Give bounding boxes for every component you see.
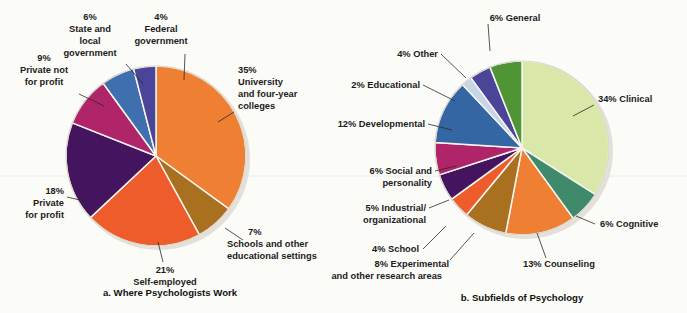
label-6-line1: 6%: [83, 12, 97, 22]
label-6-line3: local: [79, 36, 100, 46]
label-4-school: 4% School: [372, 244, 419, 254]
label-5-industrial-line2: organizational: [363, 215, 426, 225]
label-6-social-line1: 6% Social and: [369, 166, 432, 176]
label-5-industrial-line1: 5% Industrial/: [366, 203, 427, 213]
label-34-clinical: 34% Clinical: [598, 94, 652, 104]
label-21-line2: Self-employed: [133, 277, 197, 287]
label-8-experimental-line1: 8% Experimental: [375, 259, 449, 269]
label-4-other: 4% Other: [397, 49, 438, 59]
caption-chart-a: a. Where Psychologists Work: [103, 287, 238, 298]
label-13-counseling: 13% Counseling: [523, 259, 595, 269]
label-35-line1: 35%: [238, 65, 257, 75]
label-4-line2: Federal: [144, 24, 177, 34]
label-35-line4: colleges: [238, 101, 275, 111]
label-18-line1: 18%: [45, 186, 64, 196]
label-9-line2: Private not: [20, 65, 68, 75]
two-pie-charts-figure: 35% University and four-year colleges 7%…: [0, 0, 687, 313]
label-2-educational: 2% Educational: [351, 80, 420, 90]
label-6-cognitive: 6% Cognitive: [600, 219, 658, 229]
label-4-line1: 4%: [154, 12, 168, 22]
label-12-developmental: 12% Developmental: [338, 119, 425, 129]
caption-chart-b: b. Subfields of Psychology: [461, 292, 584, 303]
label-4-line3: government: [134, 36, 187, 46]
label-35-line3: and four-year: [238, 89, 298, 99]
pie-b-slices: [435, 61, 609, 235]
label-6-line4: government: [63, 48, 116, 58]
pie-a-slices: [66, 66, 246, 246]
label-9-line1: 9%: [37, 53, 51, 63]
label-8-experimental-line2: and other research areas: [331, 271, 442, 281]
label-21-line1: 21%: [156, 265, 175, 275]
figure-root: 35% University and four-year colleges 7%…: [0, 0, 687, 313]
label-6-social-line2: personality: [382, 178, 432, 188]
label-18-line3: for profit: [25, 210, 64, 220]
label-6-line2: State and: [69, 24, 111, 34]
label-6-general: 6% General: [490, 13, 541, 23]
label-7-line3: educational settings: [227, 251, 317, 261]
label-7-line1: 7%: [248, 227, 262, 237]
label-9-line3: for profit: [25, 77, 64, 87]
label-18-line2: Private: [33, 198, 64, 208]
label-35-line2: University: [238, 77, 284, 87]
label-7-line2: Schools and other: [227, 239, 308, 249]
